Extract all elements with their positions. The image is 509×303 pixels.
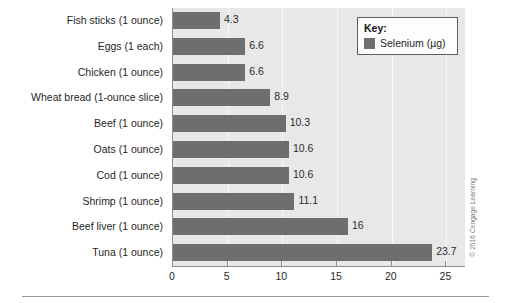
category-label: Wheat bread (1-ounce slice) xyxy=(0,85,168,111)
legend-item-selenium: Selenium (µg) xyxy=(364,37,451,49)
bar xyxy=(173,89,270,106)
bar-value-label: 10.6 xyxy=(293,140,313,157)
bar-row: 6.6 xyxy=(173,60,465,86)
bar xyxy=(173,193,294,210)
category-label: Beef (1 ounce) xyxy=(0,111,168,137)
bar-row: 11.1 xyxy=(173,189,465,215)
bottom-divider xyxy=(22,296,489,297)
bar-value-label: 6.6 xyxy=(249,63,264,80)
category-label: Eggs (1 each) xyxy=(0,34,168,60)
category-label: Shrimp (1 ounce) xyxy=(0,189,168,215)
category-label: Cod (1 ounce) xyxy=(0,163,168,189)
bar-value-label: 23.7 xyxy=(436,243,456,260)
x-tick-mark xyxy=(391,261,392,266)
category-label: Chicken (1 ounce) xyxy=(0,60,168,86)
x-tick-mark xyxy=(281,261,282,266)
x-tick-label: 5 xyxy=(224,270,230,282)
legend-title: Key: xyxy=(364,22,451,34)
category-label: Beef liver (1 ounce) xyxy=(0,214,168,240)
bar-value-label: 8.9 xyxy=(274,88,289,105)
bar-value-label: 4.3 xyxy=(224,11,239,28)
bar-value-label: 6.6 xyxy=(249,37,264,54)
bar xyxy=(173,38,245,55)
x-tick-mark xyxy=(336,261,337,266)
bar-value-label: 10.6 xyxy=(293,166,313,183)
bar xyxy=(173,64,245,81)
bar xyxy=(173,218,348,235)
bar xyxy=(173,167,289,184)
x-tick-mark xyxy=(445,261,446,266)
bar-value-label: 10.3 xyxy=(290,114,310,131)
x-axis-line xyxy=(172,266,465,267)
bar-row: 10.3 xyxy=(173,111,465,137)
bar xyxy=(173,12,220,29)
bar xyxy=(173,141,289,158)
copyright-notice: © 2016 Cengage Learning xyxy=(469,178,476,257)
bar-row: 10.6 xyxy=(173,163,465,189)
x-tick-mark xyxy=(227,261,228,266)
bar-row: 10.6 xyxy=(173,137,465,163)
category-label: Tuna (1 ounce) xyxy=(0,240,168,266)
category-label: Oats (1 ounce) xyxy=(0,137,168,163)
x-tick-label: 25 xyxy=(440,270,452,282)
bar-row: 8.9 xyxy=(173,85,465,111)
chart-figure: Fish sticks (1 ounce)Eggs (1 each)Chicke… xyxy=(0,0,509,303)
bar-row: 16 xyxy=(173,214,465,240)
bar-value-label: 16 xyxy=(352,217,364,234)
legend-item-label: Selenium (µg) xyxy=(380,37,446,49)
x-tick-label: 20 xyxy=(385,270,397,282)
x-tick-label: 10 xyxy=(276,270,288,282)
legend-box: Key: Selenium (µg) xyxy=(357,17,458,55)
bar xyxy=(173,244,432,261)
bar-row: 23.7 xyxy=(173,240,465,266)
legend-swatch-icon xyxy=(364,38,375,49)
bar xyxy=(173,115,286,132)
bar-value-label: 11.1 xyxy=(298,192,318,209)
x-tick-label: 15 xyxy=(330,270,342,282)
category-label-column: Fish sticks (1 ounce)Eggs (1 each)Chicke… xyxy=(0,8,168,266)
category-label: Fish sticks (1 ounce) xyxy=(0,8,168,34)
x-tick-label: 0 xyxy=(169,270,175,282)
